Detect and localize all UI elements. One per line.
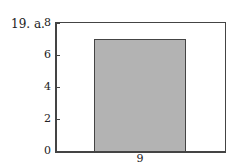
y-tick-label: 6 [39,49,51,60]
y-tick [56,55,60,56]
y-tick-label: 8 [39,17,51,28]
y-tick-label: 4 [39,81,51,92]
y-tick [56,87,60,88]
y-tick-label: 2 [39,113,51,124]
y-tick-label: 0 [39,145,51,156]
y-tick [56,119,60,120]
bar-9 [94,39,186,151]
y-tick [56,151,60,152]
y-tick [56,23,60,24]
x-tick-label: 9 [130,153,150,163]
